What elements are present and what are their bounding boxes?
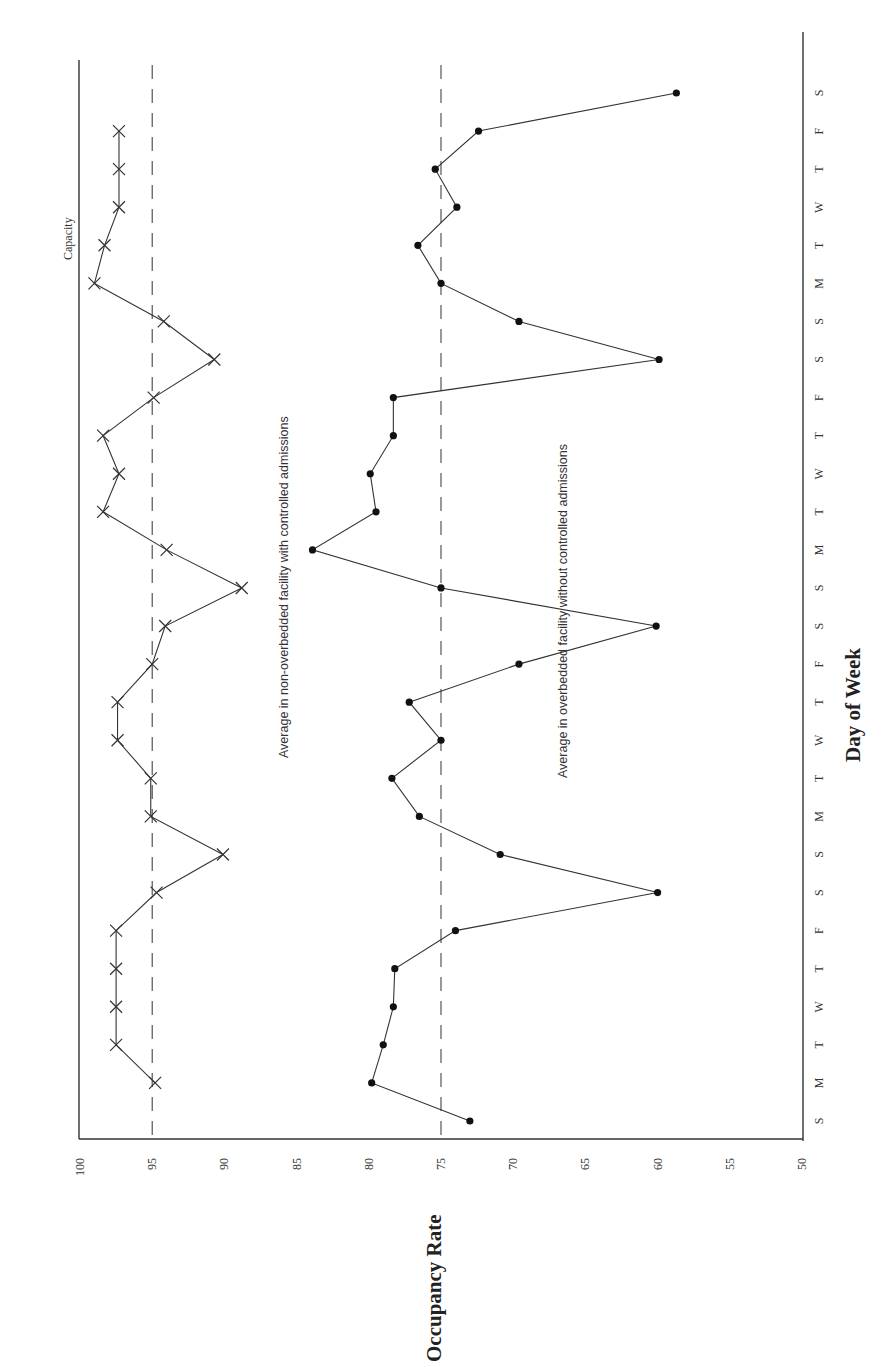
y-axis-title: Occupancy Rate <box>422 1214 446 1362</box>
dot-marker-icon <box>466 1117 473 1124</box>
day-label: M <box>812 278 826 289</box>
day-label: F <box>812 127 826 134</box>
day-label: M <box>812 544 826 555</box>
dot-marker-icon <box>406 699 413 706</box>
tick-label: 70 <box>506 1158 520 1170</box>
day-label: S <box>812 889 826 896</box>
day-label: T <box>812 964 826 972</box>
tick-label: 75 <box>434 1158 448 1170</box>
x-marker-icon <box>99 239 111 251</box>
dot-marker-icon <box>367 470 374 477</box>
x-marker-icon <box>236 582 248 594</box>
tick-label: 90 <box>217 1158 231 1170</box>
dot-marker-icon <box>515 318 522 325</box>
x-marker-icon <box>159 620 171 632</box>
x-marker-icon <box>113 468 125 480</box>
day-label: W <box>812 1000 826 1012</box>
day-label: T <box>812 507 826 515</box>
tick-label: 100 <box>73 1158 87 1176</box>
day-label: T <box>812 165 826 173</box>
day-label: S <box>812 318 826 325</box>
series-line <box>312 93 676 1121</box>
day-label: W <box>812 201 826 213</box>
dot-marker-icon <box>391 965 398 972</box>
tick-label: 55 <box>723 1158 737 1170</box>
capacity-label: Capacity <box>61 217 75 260</box>
dot-marker-icon <box>654 889 661 896</box>
series-non-overbedded <box>88 125 247 1089</box>
day-label: W <box>812 467 826 479</box>
day-label: S <box>812 585 826 592</box>
dot-marker-icon <box>416 813 423 820</box>
day-label: F <box>812 394 826 401</box>
series-overbedded <box>309 89 680 1124</box>
x-marker-icon <box>88 277 100 289</box>
dot-marker-icon <box>673 89 680 96</box>
x-marker-icon <box>158 315 170 327</box>
dot-marker-icon <box>653 622 660 629</box>
day-label: W <box>812 734 826 746</box>
dot-marker-icon <box>368 1079 375 1086</box>
x-marker-icon <box>208 354 220 366</box>
series-b-annotation: Average in overbedded facility without c… <box>556 444 570 778</box>
dot-marker-icon <box>452 927 459 934</box>
x-marker-icon <box>149 1077 161 1089</box>
day-label: S <box>812 623 826 630</box>
x-marker-icon <box>148 392 160 404</box>
dot-marker-icon <box>497 851 504 858</box>
tick-label: 65 <box>578 1158 592 1170</box>
dot-marker-icon <box>414 242 421 249</box>
tick-label: 60 <box>651 1158 665 1170</box>
day-label: M <box>812 811 826 822</box>
day-label: F <box>812 660 826 667</box>
dot-marker-icon <box>309 546 316 553</box>
x-marker-icon <box>97 506 109 518</box>
occupancy-chart: 10095908580757065605550 SMTWTFSSMTWTFSSM… <box>0 0 894 1367</box>
dot-marker-icon <box>515 661 522 668</box>
day-label: F <box>812 927 826 934</box>
x-marker-icon <box>161 544 173 556</box>
dot-marker-icon <box>437 584 444 591</box>
x-marker-icon <box>217 848 229 860</box>
occupancy-ticks: 10095908580757065605550 <box>73 1158 809 1176</box>
tick-label: 80 <box>362 1158 376 1170</box>
dot-marker-icon <box>437 280 444 287</box>
series-line <box>94 131 241 1083</box>
x-marker-icon <box>97 430 109 442</box>
dot-marker-icon <box>388 775 395 782</box>
dot-marker-icon <box>437 737 444 744</box>
day-of-week-ticks: SMTWTFSSMTWTFSSMTWTFSSMTWTFS <box>812 90 826 1125</box>
dot-marker-icon <box>380 1041 387 1048</box>
dot-marker-icon <box>390 1003 397 1010</box>
day-label: S <box>812 851 826 858</box>
dot-marker-icon <box>372 508 379 515</box>
tick-label: 50 <box>795 1158 809 1170</box>
series-a-annotation: Average in non-overbedded facility with … <box>277 416 291 758</box>
dot-marker-icon <box>475 127 482 134</box>
day-label: T <box>812 241 826 249</box>
day-label: S <box>812 90 826 97</box>
day-label: S <box>812 356 826 363</box>
tick-label: 85 <box>290 1158 304 1170</box>
day-label: S <box>812 1118 826 1125</box>
x-axis-title: Day of Week <box>841 648 865 762</box>
day-label: T <box>812 698 826 706</box>
dot-marker-icon <box>390 394 397 401</box>
tick-label: 95 <box>145 1158 159 1170</box>
day-label: T <box>812 1041 826 1049</box>
dot-marker-icon <box>453 204 460 211</box>
dot-marker-icon <box>432 166 439 173</box>
day-label: T <box>812 431 826 439</box>
day-label: T <box>812 774 826 782</box>
day-label: M <box>812 1077 826 1088</box>
dot-marker-icon <box>655 356 662 363</box>
dot-marker-icon <box>390 432 397 439</box>
